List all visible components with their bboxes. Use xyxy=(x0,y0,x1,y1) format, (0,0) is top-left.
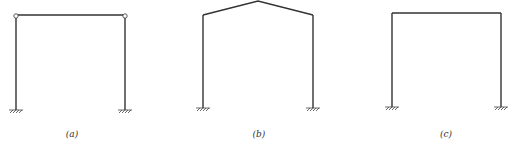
frame-b xyxy=(203,1,313,108)
fixed-support-icons xyxy=(9,107,508,113)
label-c: (c) xyxy=(440,129,452,139)
frame-a xyxy=(14,14,127,110)
hinge-icon xyxy=(123,14,127,18)
frame-c xyxy=(392,13,501,107)
hinge-icon xyxy=(14,14,18,18)
label-b: (b) xyxy=(253,129,266,139)
label-a: (a) xyxy=(66,129,78,139)
